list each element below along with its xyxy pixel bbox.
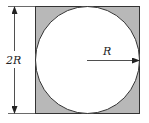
- diagram-canvas: 2R R: [0, 0, 149, 123]
- inscribed-circle: [36, 7, 140, 114]
- radius-label: R: [102, 45, 111, 58]
- side-length-label: 2R: [5, 54, 21, 67]
